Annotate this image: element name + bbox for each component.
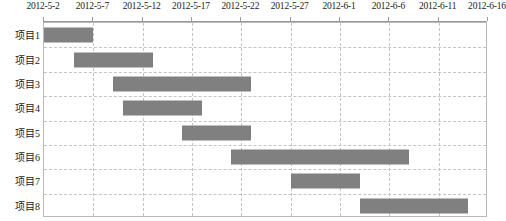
vertical-gridline — [439, 23, 440, 216]
x-axis-tick-label: 2012-6-6 — [372, 1, 405, 11]
y-axis-tick-label: 项目5 — [0, 124, 40, 139]
horizontal-gridline — [44, 72, 486, 73]
horizontal-gridline — [44, 145, 486, 146]
gantt-bar — [44, 28, 93, 43]
x-axis-tick-label: 2012-5-2 — [26, 1, 59, 11]
gantt-bar — [360, 198, 469, 213]
y-axis-tick-label: 项目3 — [0, 75, 40, 90]
y-axis-tick-label: 项目2 — [0, 51, 40, 66]
horizontal-gridline — [44, 47, 486, 48]
gantt-bar — [291, 174, 360, 189]
gantt-bar — [123, 101, 202, 116]
y-axis-tick-label: 项目4 — [0, 100, 40, 115]
gantt-bar — [231, 150, 409, 165]
horizontal-gridline — [44, 121, 486, 122]
vertical-gridline — [241, 23, 242, 216]
gantt-bar — [74, 52, 153, 67]
gantt-bar — [113, 76, 251, 91]
x-axis-tick-label: 2012-5-17 — [172, 1, 210, 11]
horizontal-gridline — [44, 169, 486, 170]
y-axis-labels: 项目1项目2项目3项目4项目5项目6项目7项目8 — [0, 22, 43, 217]
x-axis-tick-label: 2012-5-7 — [76, 1, 109, 11]
gantt-bar — [182, 125, 251, 140]
x-axis-tick-label: 2012-6-16 — [468, 1, 506, 11]
y-axis-tick-label: 项目1 — [0, 27, 40, 42]
y-axis-tick-label: 项目6 — [0, 149, 40, 164]
vertical-gridline — [389, 23, 390, 216]
x-axis-tick-label: 2012-6-1 — [322, 1, 355, 11]
x-axis-tick-label: 2012-5-12 — [123, 1, 161, 11]
x-axis-tick-mark — [487, 17, 488, 21]
vertical-gridline — [192, 23, 193, 216]
horizontal-gridline — [44, 194, 486, 195]
x-axis-tick-label: 2012-6-11 — [419, 1, 456, 11]
y-axis-tick-label: 项目7 — [0, 173, 40, 188]
horizontal-gridline — [44, 96, 486, 97]
y-axis-tick-label: 项目8 — [0, 197, 40, 212]
x-axis-tick-label: 2012-5-22 — [221, 1, 259, 11]
x-axis-tick-label: 2012-5-27 — [271, 1, 309, 11]
plot-area — [43, 22, 487, 217]
x-axis-labels: 2012-5-22012-5-72012-5-122012-5-172012-5… — [0, 0, 500, 17]
